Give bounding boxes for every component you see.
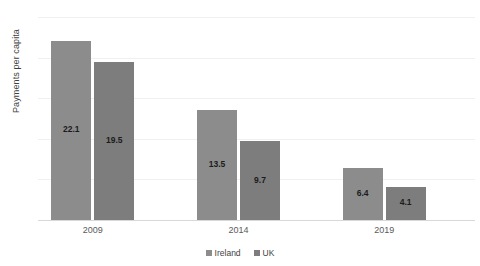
plot-area: 0510152025 22.119.513.59.76.44.1 2009201…	[38, 17, 475, 220]
x-tick-label: 2019	[339, 225, 429, 235]
bar-value-label: 19.5	[94, 135, 134, 145]
bar-value-label: 6.4	[343, 188, 383, 198]
bar: 13.5	[197, 110, 237, 220]
bar-value-label: 9.7	[240, 175, 280, 185]
bar-chart: Payments per capita 0510152025 22.119.51…	[0, 0, 480, 266]
gridline	[38, 58, 475, 59]
bar: 19.5	[94, 62, 134, 220]
x-tick-label: 2014	[194, 225, 284, 235]
gridline	[38, 220, 475, 221]
bar-value-label: 4.1	[386, 197, 426, 207]
bar: 6.4	[343, 168, 383, 220]
x-tick-label: 2009	[48, 225, 138, 235]
legend-item[interactable]: UK	[254, 248, 275, 258]
legend-swatch-icon	[254, 250, 260, 256]
bar: 22.1	[51, 41, 91, 220]
bar: 9.7	[240, 141, 280, 220]
legend-swatch-icon	[206, 250, 212, 256]
chart-title	[0, 0, 480, 1]
legend-label: Ireland	[215, 248, 241, 258]
y-axis-title: Payments per capita	[11, 11, 21, 131]
chart-legend: IrelandUK	[0, 248, 480, 258]
bar-value-label: 22.1	[51, 124, 91, 134]
bar: 4.1	[386, 187, 426, 220]
legend-item[interactable]: Ireland	[206, 248, 241, 258]
bar-value-label: 13.5	[197, 159, 237, 169]
legend-label: UK	[263, 248, 275, 258]
gridline	[38, 17, 475, 18]
